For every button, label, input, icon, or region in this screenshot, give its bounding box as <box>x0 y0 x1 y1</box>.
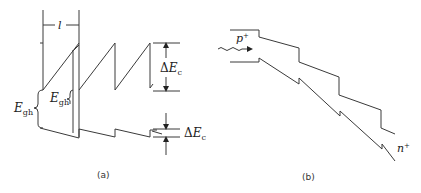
p-plus-label: p+ <box>236 32 249 45</box>
panel-b: p+ n+ (b) <box>218 30 410 182</box>
n-plus-label: n+ <box>397 142 410 155</box>
photon-wave-arrow <box>218 48 250 51</box>
egh-outer-brace <box>34 90 43 128</box>
conduction-band-staircase <box>230 30 395 134</box>
conduction-band-sawtooth <box>43 43 153 90</box>
egh-outer-label: Egh <box>13 101 33 117</box>
valence-band-staircase <box>230 58 395 161</box>
egh-inner-label: Egh <box>49 91 69 107</box>
valence-band-sawtooth <box>40 128 157 138</box>
caption-a: (a) <box>97 170 110 180</box>
delta-ec-bottom-label: ΔEc <box>184 126 206 142</box>
delta-ec-top-label: ΔEc <box>160 61 182 77</box>
panel-a: l Egh Egh ΔEc ΔE <box>13 10 206 180</box>
band-diagram: l Egh Egh ΔEc ΔE <box>0 0 421 193</box>
caption-b: (b) <box>302 172 315 182</box>
delta-ec-top: ΔEc <box>153 43 182 91</box>
period-label: l <box>58 19 62 32</box>
